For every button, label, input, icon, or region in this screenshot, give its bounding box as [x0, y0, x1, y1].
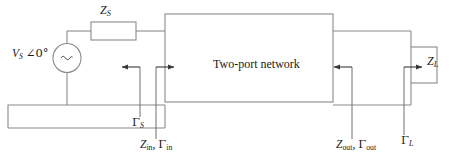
load-impedance-subscript: L [434, 60, 439, 69]
source-voltage-subscript: S [19, 52, 23, 61]
gamma-l-symbol: Γ [401, 133, 409, 147]
z-out-subscript: out [342, 143, 352, 152]
gamma-out-symbol: Γ [358, 137, 366, 151]
gamma-in-subscript: in [166, 143, 172, 152]
gamma-l-label: ΓL [401, 135, 413, 148]
source-impedance-label: ZS [100, 4, 111, 18]
source-label: VS ∠0° [12, 48, 49, 61]
gamma-s-subscript: S [140, 121, 144, 130]
source-phase-angle: ∠0° [26, 46, 49, 60]
source-voltage-symbol: V [12, 47, 19, 59]
gamma-out-subscript: out [366, 143, 376, 152]
z-in-gamma-in-label: Zin, Γin [140, 139, 172, 152]
gamma-s-symbol: Γ [132, 115, 140, 129]
source-impedance-subscript: S [107, 9, 111, 18]
z-out-gamma-out-label: Zout, Γout [336, 139, 376, 152]
source-branch-wiring [67, 31, 165, 105]
ground-rail [8, 105, 67, 128]
load-impedance-symbol: Z [427, 54, 434, 68]
two-port-network-label: Two-port network [213, 58, 300, 70]
source-impedance-symbol: Z [100, 3, 107, 17]
voltage-source-symbol [53, 44, 81, 73]
load-impedance-label: ZL [427, 55, 438, 69]
circuit-diagram: ZS VS ∠0° Two-port network ZL ΓS Zin, Γi… [0, 0, 461, 164]
source-impedance-box [91, 22, 136, 40]
gamma-l-subscript: L [409, 139, 413, 148]
gamma-s-label: ΓS [132, 117, 144, 130]
circuit-schematic-canvas [0, 0, 461, 164]
